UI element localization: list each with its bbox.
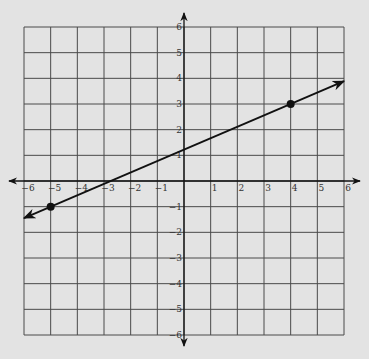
- y-tick-label: 4: [176, 73, 182, 83]
- x-tick-label: 3: [265, 183, 271, 193]
- y-tick-label: −3: [169, 253, 183, 263]
- x-tick-label: 6: [345, 183, 351, 193]
- y-tick-label: −4: [169, 279, 183, 289]
- y-tick-label: −1: [169, 202, 182, 212]
- x-tick-label: 1: [212, 183, 218, 193]
- y-tick-label: −2: [169, 227, 182, 237]
- y-tick-label: 6: [176, 22, 182, 32]
- y-tick-label: −5: [169, 304, 183, 314]
- coordinate-plane: −6−5−4−3−2−1123456−6−5−4−3−2−1123456: [0, 0, 369, 359]
- axes: [9, 13, 360, 346]
- y-tick-label: −6: [169, 330, 183, 340]
- x-tick-label: −5: [48, 183, 62, 193]
- x-tick-label: −2: [128, 183, 141, 193]
- plotted-point: [47, 203, 55, 211]
- x-tick-label: 4: [292, 183, 298, 193]
- y-tick-label: 3: [176, 99, 182, 109]
- plotted-point: [287, 100, 295, 108]
- x-tick-label: 5: [318, 183, 324, 193]
- y-tick-label: 5: [176, 48, 182, 58]
- x-tick-label: 2: [238, 183, 244, 193]
- x-tick-label: −6: [21, 183, 35, 193]
- y-tick-label: 2: [176, 125, 182, 135]
- x-tick-label: −1: [155, 183, 168, 193]
